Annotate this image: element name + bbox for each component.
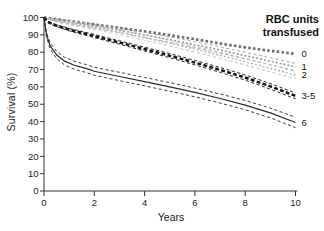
x-axis-title: Years: [138, 211, 204, 223]
legend-title-line1: RBC units: [263, 13, 319, 26]
series-3-5-line: [44, 18, 296, 96]
y-axis-title: Survival (%): [5, 61, 17, 143]
series-1-line: [44, 18, 296, 67]
survival-figure: 010203040506070809010002468100123-56 Sur…: [0, 0, 324, 231]
series-2-ci-upper: [44, 18, 296, 72]
x-tick-label: 0: [41, 197, 46, 208]
y-tick-label: 20: [28, 151, 39, 162]
legend-title: RBC units transfused: [263, 13, 319, 38]
y-tick-label: 0: [33, 185, 38, 196]
y-tick-label: 90: [28, 29, 39, 40]
curve-label-2: 2: [302, 69, 307, 80]
legend-title-line2: transfused: [263, 26, 319, 39]
series-2-ci-lower: [44, 18, 296, 79]
x-tick-label: 2: [92, 197, 97, 208]
y-tick-label: 10: [28, 168, 39, 179]
y-tick-label: 30: [28, 133, 39, 144]
y-tick-label: 50: [28, 98, 39, 109]
series-0-line: [44, 18, 296, 54]
x-tick-label: 8: [243, 197, 248, 208]
curve-label-0: 0: [302, 48, 307, 59]
x-tick-label: 4: [142, 197, 147, 208]
y-tick-label: 100: [23, 12, 39, 23]
y-tick-label: 70: [28, 64, 39, 75]
series-6-line: [44, 18, 296, 123]
y-tick-label: 40: [28, 116, 39, 127]
x-tick-label: 6: [192, 197, 197, 208]
curve-label-6: 6: [302, 117, 307, 128]
y-tick-label: 80: [28, 46, 39, 57]
curve-label-3-5: 3-5: [302, 90, 316, 101]
x-tick-label: 10: [290, 197, 301, 208]
y-tick-label: 60: [28, 81, 39, 92]
